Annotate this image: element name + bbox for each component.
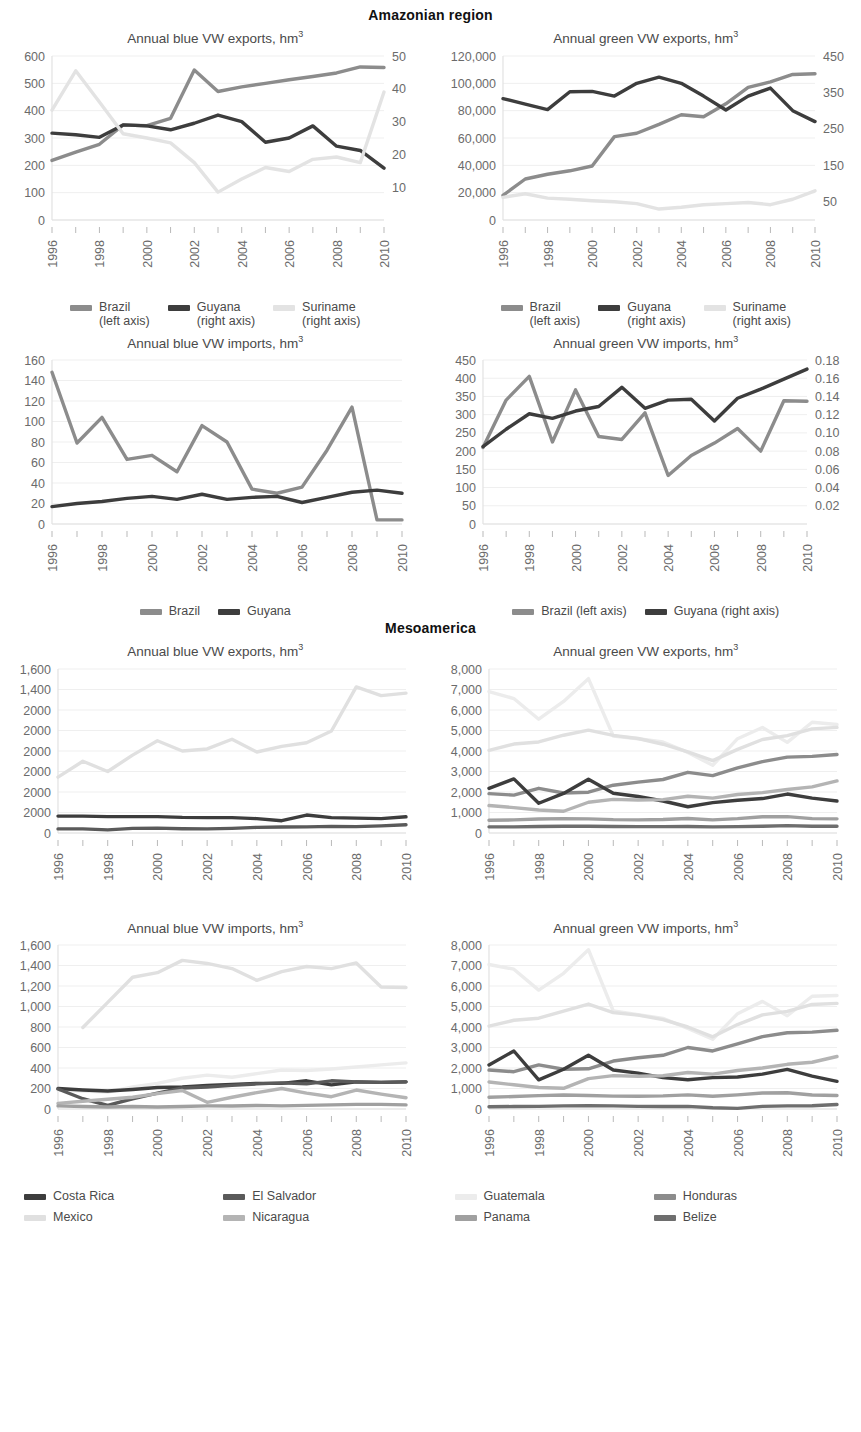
y2-tick-label: 0.08 — [815, 445, 839, 459]
x-tick-label: 2004 — [675, 239, 689, 267]
series-line-guatemala — [489, 950, 837, 1040]
series-line-brazil — [503, 73, 815, 195]
chart-title-text: Annual blue VW exports, hm — [127, 31, 298, 46]
legend-item-el-salvador: El Salvador — [223, 1189, 316, 1203]
x-tick-label: 2002 — [201, 1129, 215, 1157]
x-tick-label: 2010 — [831, 1129, 845, 1157]
legend-swatch-icon — [168, 305, 190, 311]
x-tick-label: 2008 — [331, 239, 345, 267]
x-tick-label: 2002 — [196, 544, 210, 572]
y2-tick-label: 150 — [823, 158, 844, 172]
legend-swatch-icon — [140, 609, 162, 615]
x-tick-label: 2010 — [831, 852, 845, 880]
legend-amazon-blue-imports: BrazilGuyana — [0, 602, 431, 618]
x-tick-label: 2000 — [141, 239, 155, 267]
x-tick-label: 2008 — [350, 852, 364, 880]
y-tick-label: 0 — [44, 826, 51, 840]
y2-tick-label: 0.18 — [815, 354, 839, 368]
x-tick-label: 2002 — [632, 852, 646, 880]
x-tick-label: 1998 — [541, 239, 555, 267]
y-tick-label: 0 — [489, 213, 496, 227]
chart-svg-meso-green-exports: 01,0002,0003,0004,0005,0006,0007,0008,00… — [431, 661, 861, 913]
y-tick-label: 20,000 — [457, 186, 495, 200]
x-tick-label: 1998 — [102, 1129, 116, 1157]
legend-swatch-icon — [598, 305, 620, 311]
chart-title: Annual blue VW imports, hm3 — [0, 328, 431, 353]
series-line-mexico — [489, 727, 837, 760]
y2-tick-label: 30 — [392, 115, 406, 129]
legend-swatch-icon — [512, 609, 534, 615]
mesoamerica-legend-right: GuatemalaHondurasPanamaBelize — [431, 1187, 861, 1224]
x-tick-label: 2000 — [582, 1129, 596, 1157]
chart-title-superscript: 3 — [298, 919, 303, 929]
amazonian-exports-row: Annual blue VW exports, hm3 010020030040… — [0, 23, 861, 328]
x-tick-label: 2004 — [246, 544, 260, 572]
legend-item-nicaragua: Nicaragua — [223, 1210, 309, 1224]
chart-title-superscript: 3 — [733, 334, 738, 344]
x-tick-label: 2008 — [764, 239, 778, 267]
chart-title: Annual green VW imports, hm3 — [431, 328, 861, 353]
y-tick-label: 7,000 — [450, 683, 481, 697]
y2-tick-label: 20 — [392, 147, 406, 161]
y-tick-label: 50 — [462, 499, 476, 513]
x-tick-label: 2004 — [662, 544, 676, 572]
chart-title-superscript: 3 — [733, 29, 738, 39]
y2-tick-label: 0.14 — [815, 390, 839, 404]
series-line-panama — [489, 816, 837, 820]
x-tick-label: 2010 — [801, 544, 815, 572]
y-tick-label: 2000 — [23, 806, 51, 820]
chart-cell-meso-blue-imports: Annual blue VW imports, hm3 020040060080… — [0, 913, 431, 1188]
y2-tick-label: 50 — [392, 49, 406, 63]
y-tick-label: 0 — [38, 213, 45, 227]
y-tick-label: 600 — [30, 1041, 51, 1055]
y-tick-label: 400 — [455, 372, 476, 386]
legend-label: Costa Rica — [53, 1189, 114, 1203]
legend-swatch-icon — [70, 305, 92, 311]
x-tick-label: 1996 — [52, 852, 66, 880]
y-tick-label: 1,200 — [20, 980, 51, 994]
x-tick-label: 2010 — [396, 544, 410, 572]
y-tick-label: 40,000 — [457, 158, 495, 172]
chart-cell-amazon-blue-imports: Annual blue VW imports, hm3 020406080100… — [0, 328, 431, 619]
legend-meso-left-group: Costa RicaEl SalvadorMexicoNicaragua — [0, 1187, 431, 1224]
legend-item-brazil: Brazil (left axis) — [501, 300, 581, 328]
x-tick-label: 1998 — [532, 852, 546, 880]
x-tick-label: 1996 — [46, 544, 60, 572]
plot-area-meso-green-imports: 01,0002,0003,0004,0005,0006,0007,0008,00… — [431, 937, 861, 1187]
y-tick-label: 450 — [455, 354, 476, 368]
y2-tick-label: 450 — [823, 49, 844, 63]
x-tick-label: 2000 — [146, 544, 160, 572]
y-tick-label: 60,000 — [457, 131, 495, 145]
y-tick-label: 2000 — [23, 724, 51, 738]
y-tick-label: 140 — [24, 374, 45, 388]
legend-label: Honduras — [683, 1189, 737, 1203]
chart-cell-amazon-green-imports: Annual green VW imports, hm3 05010015020… — [431, 328, 861, 619]
series-line-costa-rica — [489, 778, 837, 806]
chart-page: Amazonian region Annual blue VW exports,… — [0, 0, 861, 1432]
y-tick-label: 0 — [475, 826, 482, 840]
y-tick-label: 6,000 — [450, 703, 481, 717]
x-tick-label: 1996 — [46, 239, 60, 267]
y2-tick-label: 0.10 — [815, 426, 839, 440]
legend-item-guyana: Guyana (right axis) — [168, 300, 255, 328]
x-tick-label: 1996 — [477, 544, 491, 572]
x-tick-label: 2008 — [346, 544, 360, 572]
x-tick-label: 1998 — [93, 239, 107, 267]
x-tick-label: 2004 — [681, 1129, 695, 1157]
x-tick-label: 1998 — [523, 544, 537, 572]
legend-amazon-blue-exports: Brazil (left axis)Guyana (right axis)Sur… — [0, 298, 431, 328]
legend-amazon-green-imports: Brazil (left axis)Guyana (right axis) — [431, 602, 861, 618]
y-tick-label: 4,000 — [450, 1021, 481, 1035]
y-tick-label: 20 — [31, 497, 45, 511]
y-tick-label: 160 — [24, 354, 45, 368]
x-tick-label: 2008 — [754, 544, 768, 572]
legend-item-brazil: Brazil (left axis) — [70, 300, 150, 328]
section-title-amazonian: Amazonian region — [0, 0, 861, 23]
x-tick-label: 2006 — [301, 1129, 315, 1157]
chart-svg-amazon-green-imports: 0501001502002503003504004500.020.040.060… — [431, 352, 861, 602]
y-tick-label: 80,000 — [457, 104, 495, 118]
series-line-suriname — [503, 190, 815, 208]
legend-label: Panama — [484, 1210, 531, 1224]
y-tick-label: 120 — [24, 395, 45, 409]
legend-swatch-icon — [455, 1194, 477, 1200]
